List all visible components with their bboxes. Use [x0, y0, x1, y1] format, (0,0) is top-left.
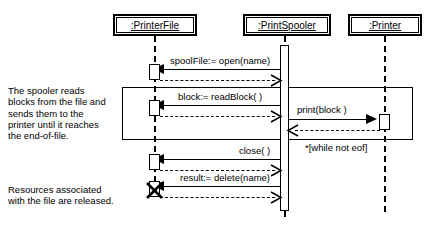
activation-printerfile-open	[149, 64, 160, 80]
arrowhead-return-readblock-icon	[269, 110, 281, 122]
message-label-open: spoolFile:= open(name)	[170, 55, 270, 66]
message-line-delete	[163, 186, 280, 187]
arrowhead-return-print-icon	[286, 124, 298, 136]
object-label-printerfile: :PrinterFile	[131, 20, 179, 31]
loop-guard-label: *[while not eof]	[304, 142, 368, 153]
arrowhead-return-delete-icon	[269, 191, 281, 203]
arrowhead-return-close-icon	[269, 164, 281, 176]
message-label-print: print(block )	[297, 104, 347, 115]
message-line-open	[163, 69, 280, 70]
message-label-readblock: block:= readBlock( )	[178, 91, 262, 102]
message-line-close	[163, 159, 280, 160]
note-loop-description: The spooler reads blocks from the file a…	[8, 85, 120, 141]
return-line-print	[295, 130, 380, 131]
activation-printerfile-close	[149, 154, 160, 170]
object-box-printerfile[interactable]: :PrinterFile	[113, 14, 197, 36]
message-label-close: close( )	[239, 145, 270, 156]
message-line-print	[289, 119, 373, 120]
message-label-delete: result:= delete(name)	[180, 172, 270, 183]
object-label-printer: :Printer	[369, 20, 401, 31]
note-destruction-description: Resources associated with the file are r…	[8, 184, 142, 207]
arrowhead-return-open-icon	[269, 74, 281, 86]
activation-printer-print	[379, 114, 390, 130]
object-label-printspooler: :PrintSpooler	[258, 20, 316, 31]
object-box-printer[interactable]: :Printer	[348, 14, 422, 36]
object-box-printspooler[interactable]: :PrintSpooler	[243, 14, 331, 36]
arrowhead-print-icon	[366, 114, 377, 124]
uml-sequence-diagram: :PrinterFile :PrintSpooler :Printer *[wh…	[0, 0, 441, 225]
return-line-open	[160, 80, 275, 81]
return-line-readblock	[160, 116, 275, 117]
destruction-marker-icon	[145, 181, 163, 199]
return-line-close	[160, 170, 275, 171]
lifeline-foot-printspooler	[284, 211, 286, 217]
return-line-delete	[160, 197, 275, 198]
message-line-readblock	[163, 105, 280, 106]
activation-printerfile-readblock	[149, 100, 160, 116]
